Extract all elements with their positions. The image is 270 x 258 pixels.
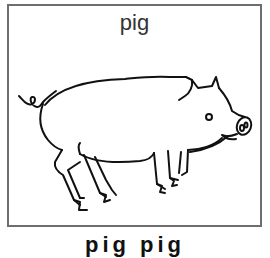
caption-text: pig pig: [0, 232, 270, 258]
